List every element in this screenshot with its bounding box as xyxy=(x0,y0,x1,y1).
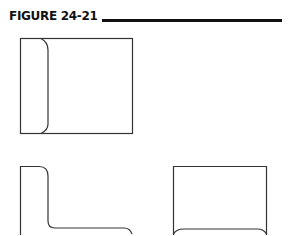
flap-pocket-box xyxy=(21,39,133,134)
open-bottom-box xyxy=(174,167,267,236)
l-shaped-profile xyxy=(21,167,133,236)
figure-diagram xyxy=(0,0,289,235)
